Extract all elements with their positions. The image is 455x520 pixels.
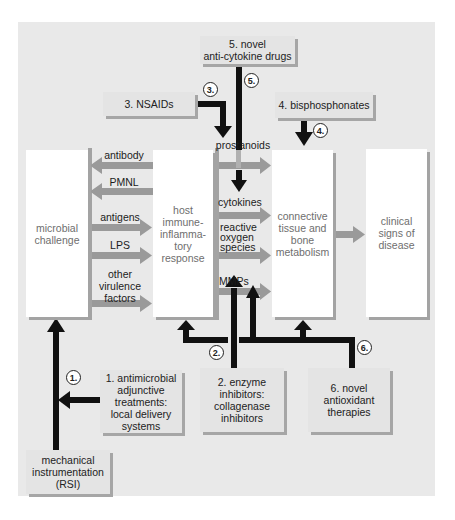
badge-4: 4. [313, 123, 328, 138]
label-other-virulence-factors: othervirulencefactors [92, 268, 148, 304]
stage-microbial-challenge: microbialchallenge [26, 150, 88, 317]
stage-connective-tissue: connectivetissue andbonemetabolism [272, 150, 333, 317]
label-lps: LPS [92, 239, 148, 251]
label-mmps: MMPs [219, 275, 249, 287]
intervention-antimicrobial: 1. antimicrobialadjunctivetreatments:loc… [100, 370, 182, 433]
stage-clinical-signs: clinicalsigns ofdisease [366, 149, 427, 317]
label-antibody: antibody [96, 149, 152, 161]
badge-3: 3. [203, 82, 218, 97]
badge-5: 5. [244, 73, 259, 88]
badge-6: 6. [357, 340, 372, 355]
label-prostanoids: prostanoids [213, 139, 273, 151]
intervention-anti-cytokine-drugs: 5. novelanti-cytokine drugs [200, 36, 295, 64]
intervention-mechanical-instrumentation: mechanicalinstrumentation(RSI) [26, 450, 110, 494]
badge-1: 1. [66, 370, 81, 385]
intervention-antioxidant: 6. novelantioxidanttherapies [308, 368, 390, 432]
label-antigens: antigens [92, 211, 148, 223]
stage-host-response: hostimmune-inflamma-toryresponse [153, 150, 213, 317]
label-pmnl: PMNL [96, 176, 152, 188]
label-reactive-oxygen-species: reactiveoxygenspecies [220, 222, 260, 252]
intervention-nsaids: 3. NSAIDs [103, 92, 195, 116]
label-cytokines: cytokines [218, 196, 266, 208]
intervention-enzyme-inhibitors: 2. enzymeinhibitors:collagenaseinhibitor… [200, 368, 284, 432]
intervention-bisphosphonates: 4. bisphosphonates [275, 92, 373, 118]
badge-2: 2. [209, 345, 224, 360]
